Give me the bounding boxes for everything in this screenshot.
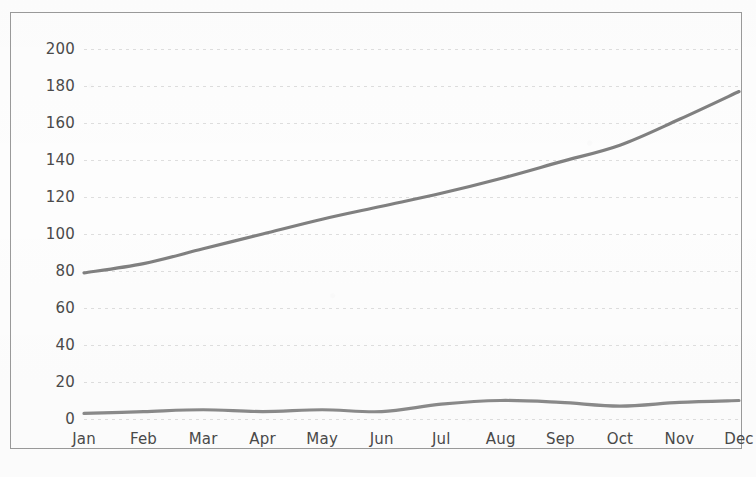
y-tick-label-0: 0 — [29, 412, 75, 427]
x-tick-label-may: May — [295, 432, 349, 447]
y-tick-label-120: 120 — [29, 190, 75, 205]
y-tick-label-140: 140 — [29, 153, 75, 168]
x-tick-label-oct: Oct — [593, 432, 647, 447]
x-tick-label-jul: Jul — [414, 432, 468, 447]
x-tick-label-feb: Feb — [117, 432, 171, 447]
x-tick-label-aug: Aug — [474, 432, 528, 447]
x-tick-label-apr: Apr — [236, 432, 290, 447]
y-tick-label-100: 100 — [29, 227, 75, 242]
x-tick-label-nov: Nov — [652, 432, 706, 447]
x-tick-label-mar: Mar — [176, 432, 230, 447]
y-tick-label-160: 160 — [29, 116, 75, 131]
y-tick-label-80: 80 — [29, 264, 75, 279]
scanned-page: 020406080100120140160180200 JanFebMarApr… — [0, 0, 756, 477]
y-axis-tick-labels: 020406080100120140160180200 — [23, 49, 75, 419]
gridline-0 — [84, 419, 739, 420]
y-tick-label-180: 180 — [29, 79, 75, 94]
series-line-upper-series — [84, 92, 739, 273]
x-tick-label-jun: Jun — [355, 432, 409, 447]
y-tick-label-200: 200 — [29, 42, 75, 57]
x-tick-label-dec: Dec — [712, 432, 756, 447]
series-lines — [84, 49, 739, 419]
y-tick-label-40: 40 — [29, 338, 75, 353]
chart-frame: 020406080100120140160180200 JanFebMarApr… — [10, 12, 742, 449]
x-axis-tick-labels: JanFebMarAprMayJunJulAugSepOctNovDec — [84, 432, 739, 454]
plot-area — [84, 49, 739, 419]
x-tick-label-jan: Jan — [57, 432, 111, 447]
x-tick-label-sep: Sep — [533, 432, 587, 447]
y-tick-label-20: 20 — [29, 375, 75, 390]
series-line-lower-series — [84, 400, 739, 413]
y-tick-label-60: 60 — [29, 301, 75, 316]
